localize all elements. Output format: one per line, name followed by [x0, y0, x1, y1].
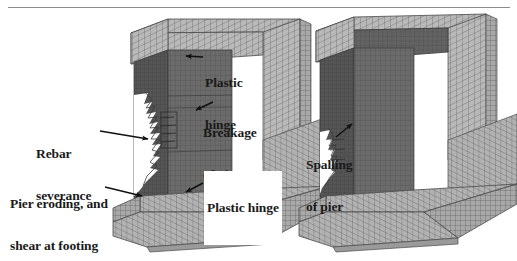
label-pier-eroding: Pier eroding, and shear at footing [10, 168, 108, 261]
label-spalling-of-pier: Spalling of pier [306, 129, 352, 243]
label-line-2: shear at footing [10, 239, 108, 253]
label-plastic-hinge-base: Plastic hinge [204, 171, 282, 245]
label-line-1: Breakage [203, 126, 257, 140]
label-line-1: Plastic [205, 76, 243, 90]
label-line-1: Spalling [306, 158, 352, 172]
label-line-2: of pier [306, 200, 352, 214]
figure-canvas: Plastic hinge Breakage of pier Rebar sev… [0, 0, 517, 261]
arrow-plastic-hinge-top [186, 56, 203, 57]
label-line-1: Rebar [36, 147, 91, 161]
label-line-1: Plastic hinge [207, 201, 279, 215]
label-line-1: Pier eroding, and [10, 197, 108, 211]
